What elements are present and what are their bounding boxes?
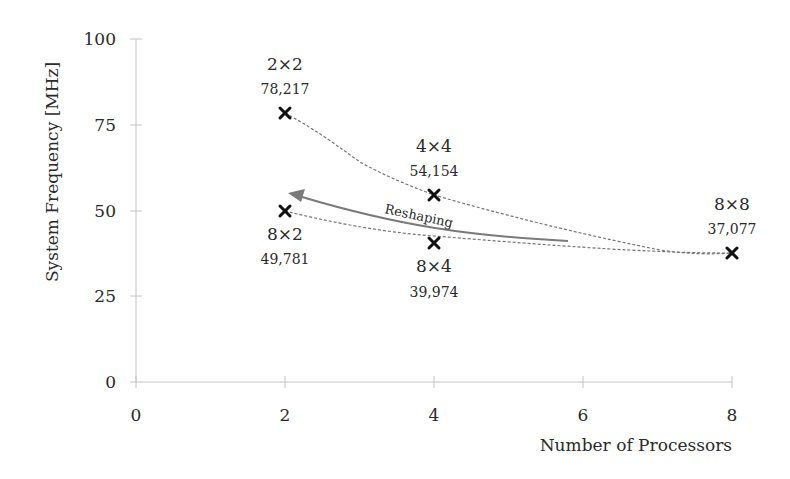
x-tick-label: 4 (429, 405, 440, 425)
point-label-8x8: 8×8 (714, 194, 750, 214)
frequency-chart: 100 75 50 25 0 0 2 4 6 8 Number of Proce… (0, 0, 790, 479)
point-value-8x4: 39,974 (410, 284, 459, 300)
marker-8x2 (280, 206, 290, 216)
y-tick-label: 100 (84, 29, 116, 49)
y-tick-label: 50 (94, 201, 116, 221)
reshaped-config-curve (285, 211, 732, 253)
point-label-8x2: 8×2 (267, 224, 303, 244)
marker-4x4 (429, 190, 439, 200)
marker-8x4 (429, 238, 439, 248)
point-value-2x2: 78,217 (261, 81, 310, 97)
point-value-8x2: 49,781 (261, 251, 310, 267)
point-value-8x8: 37,077 (708, 221, 757, 237)
point-label-2x2: 2×2 (267, 54, 303, 74)
x-tick-label: 8 (727, 405, 738, 425)
x-tick-label: 2 (280, 405, 291, 425)
point-label-8x4: 8×4 (416, 256, 452, 276)
x-tick-label: 6 (578, 405, 589, 425)
y-axis (130, 39, 142, 382)
y-tick-label: 75 (94, 115, 116, 135)
y-tick-label: 0 (105, 372, 116, 392)
x-tick-label: 0 (131, 405, 142, 425)
point-value-4x4: 54,154 (410, 163, 459, 179)
x-axis-title: Number of Processors (540, 435, 732, 455)
marker-2x2 (280, 108, 290, 118)
y-tick-label: 25 (94, 286, 116, 306)
square-config-curve (285, 113, 732, 254)
x-axis (130, 376, 732, 388)
y-axis-title: System Frequency [MHz] (42, 62, 62, 282)
point-label-4x4: 4×4 (416, 136, 452, 156)
